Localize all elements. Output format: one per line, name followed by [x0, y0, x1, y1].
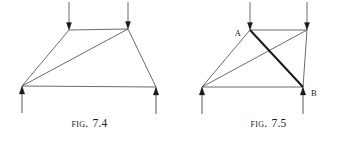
- truss-diagram-fig-7-4: [0, 0, 179, 118]
- figure-panel-right: AB Fig.7.5: [179, 0, 358, 143]
- node-label-b: B: [311, 88, 317, 98]
- reaction-arrow-bottom-right-head: [300, 87, 306, 95]
- truss-member-diagonal-a-b: [250, 30, 303, 87]
- reaction-arrow-bottom-right-head: [153, 87, 159, 95]
- figure-panel-left: Fig.7.4: [0, 0, 179, 143]
- truss-member-diagonal-bl-tr: [22, 29, 128, 86]
- node-label-a: A: [235, 28, 242, 38]
- load-arrow-top-left-head: [66, 23, 71, 31]
- reaction-arrow-bottom-left-head: [19, 86, 25, 94]
- figure-sheet: Fig.7.4 AB Fig.7.5: [0, 0, 358, 143]
- caption-number-right: 7.5: [272, 117, 287, 129]
- caption-prefix-right: Fig.: [250, 116, 267, 130]
- truss-member-top-chord: [69, 29, 128, 30]
- load-arrow-top-right-head: [125, 22, 130, 30]
- truss-member-right-chord: [303, 30, 307, 87]
- load-arrow-top-right-head: [304, 23, 309, 31]
- caption-prefix-left: Fig.: [71, 116, 88, 130]
- truss-member-left-chord: [22, 30, 69, 86]
- truss-member-right-chord: [128, 29, 156, 87]
- caption-number-left: 7.4: [93, 117, 108, 129]
- truss-diagram-fig-7-5: AB: [179, 0, 358, 118]
- figure-caption-left: Fig.7.4: [0, 116, 179, 131]
- reaction-arrow-bottom-left-head: [199, 87, 205, 95]
- truss-member-diagonal-bl-tr: [202, 30, 307, 87]
- figure-caption-right: Fig.7.5: [179, 116, 358, 131]
- load-arrow-top-left-head: [247, 23, 252, 31]
- truss-member-bottom-chord: [22, 86, 156, 87]
- truss-member-left-chord: [202, 30, 250, 87]
